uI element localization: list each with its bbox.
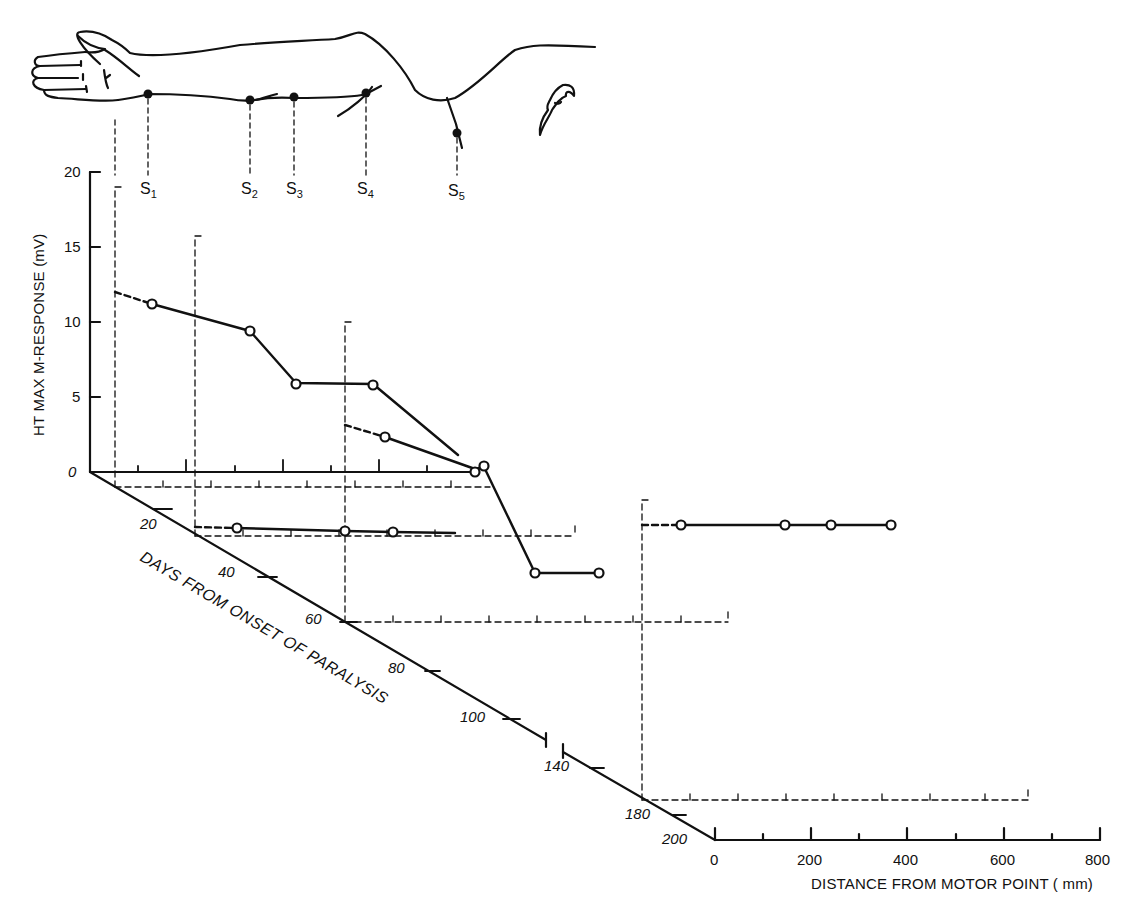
y-axis-label: HT MAX M-RESPONSE (mV) (30, 234, 47, 436)
figure-canvas (0, 0, 1140, 917)
x-tick-800: 800 (1085, 851, 1110, 868)
y-tick-10: 10 (64, 313, 81, 330)
day-tick-200: 200 (662, 830, 687, 847)
trace-main (152, 304, 458, 455)
x-tick-200: 200 (797, 851, 822, 868)
finger-2 (32, 66, 78, 78)
finger-4 (44, 90, 118, 101)
y-tick-0: 0 (68, 463, 76, 480)
day-tick-80: 80 (388, 659, 405, 676)
y-tick-20: 20 (64, 163, 81, 180)
day-plane-frames (115, 187, 1028, 800)
chest-line (447, 98, 462, 148)
site-label-s3: S3 (286, 180, 303, 200)
palm-line (104, 70, 110, 88)
arm-upper-contour (77, 31, 595, 100)
site-label-s1: S1 (140, 180, 157, 200)
x-tick-0: 0 (710, 851, 718, 868)
day-tick-60: 60 (305, 610, 322, 627)
days-axis-segment-2 (563, 752, 715, 840)
finger-3 (33, 78, 86, 90)
y-tick-5: 5 (72, 388, 80, 405)
x-axis-label: DISTANCE FROM MOTOR POINT ( mm) (811, 875, 1093, 892)
finger-1 (35, 52, 85, 66)
x-tick-400: 400 (893, 851, 918, 868)
days-axis-segment-1 (90, 472, 546, 740)
day-tick-180: 180 (625, 805, 650, 822)
day-tick-100: 100 (460, 708, 485, 725)
site-dot-s2 (246, 96, 255, 105)
data-traces (115, 292, 891, 573)
site-label-s2: S2 (241, 180, 258, 200)
site-dot-s4 (362, 89, 371, 98)
day-tick-140: 140 (544, 757, 569, 774)
y-tick-15: 15 (64, 238, 81, 255)
day-tick-40: 40 (218, 563, 235, 580)
trace-second (385, 437, 484, 469)
site-label-s4: S4 (357, 180, 374, 200)
head-outline (540, 85, 574, 135)
site-drop-lines (115, 98, 457, 175)
arm-lower-contour (118, 94, 362, 101)
trace-descent (484, 467, 599, 573)
trace-second-extrapolated (345, 425, 385, 437)
trace-day36-extrapolated (195, 527, 235, 528)
site-label-s5: S5 (448, 182, 465, 202)
day-tick-20: 20 (140, 515, 157, 532)
trace-main-extrapolated (115, 292, 152, 304)
site-dot-s5 (453, 129, 462, 138)
finger-crease-3 (86, 86, 87, 92)
site-dot-s3 (290, 93, 299, 102)
axes (90, 172, 1100, 840)
arm-illustration (32, 31, 595, 148)
x-tick-600: 600 (990, 851, 1015, 868)
site-dot-s1 (144, 90, 153, 99)
